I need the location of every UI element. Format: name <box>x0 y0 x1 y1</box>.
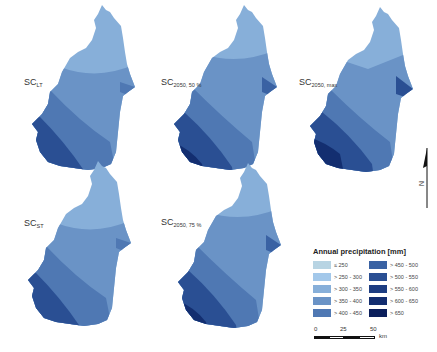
label-sub: 2050, 50 % <box>174 82 202 88</box>
label-sub: 2050, 75 % <box>174 222 202 228</box>
legend-label: > 500 - 550 <box>390 274 418 280</box>
legend-swatch <box>313 309 331 317</box>
map-sc-2050-50 <box>132 0 292 192</box>
label-main: SC <box>299 77 312 87</box>
legend-swatch <box>369 261 387 269</box>
legend-swatch <box>313 285 331 293</box>
scale-tick-50: 50 <box>370 326 377 332</box>
label-main: SC <box>161 77 174 87</box>
legend-item: > 400 - 450 <box>313 308 365 317</box>
label-main: SC <box>161 217 174 227</box>
label-sc-2050-50: SC2050, 50 % <box>161 77 201 88</box>
legend-item: > 350 - 400 <box>313 296 365 305</box>
map-sc-2050-max <box>268 0 428 194</box>
north-label: N <box>418 181 425 186</box>
legend-item: > 650 <box>369 308 429 317</box>
scale-unit: km <box>379 333 387 339</box>
north-arrow-icon <box>420 146 432 208</box>
label-sub: ST <box>37 223 44 229</box>
legend-label: > 350 - 400 <box>334 298 362 304</box>
legend-swatch <box>313 261 331 269</box>
legend-grid: ≤ 250 > 450 - 500 > 250 - 300 > 500 - 55… <box>313 260 437 317</box>
legend-item: > 550 - 600 <box>369 284 429 293</box>
map-sc-st <box>0 148 146 348</box>
legend-item: ≤ 250 <box>313 260 365 269</box>
label-sub: LT <box>37 82 43 88</box>
legend-swatch <box>369 309 387 317</box>
legend-swatch <box>313 273 331 281</box>
label-sc-st: SCST <box>24 218 44 229</box>
label-sc-2050-75: SC2050, 75 % <box>161 217 201 228</box>
label-sc-lt: SCLT <box>24 77 43 88</box>
map-sc-2050-75 <box>136 150 296 350</box>
scale-tick-0: 0 <box>314 326 317 332</box>
legend-swatch <box>369 273 387 281</box>
legend-label: > 450 - 500 <box>390 262 418 268</box>
scale-segment <box>329 336 344 339</box>
legend-label: > 300 - 350 <box>334 286 362 292</box>
legend-item: > 500 - 550 <box>369 272 429 281</box>
scale-bar: 0 25 50 km <box>312 326 392 348</box>
scale-tick-25: 25 <box>340 326 347 332</box>
legend-label: > 400 - 450 <box>334 310 362 316</box>
legend-item: > 300 - 350 <box>313 284 365 293</box>
legend-swatch <box>369 285 387 293</box>
legend-item: > 450 - 500 <box>369 260 429 269</box>
legend-item: > 600 - 650 <box>369 296 429 305</box>
legend-label: > 650 <box>390 310 404 316</box>
scale-segment <box>359 336 375 339</box>
legend-label: > 550 - 600 <box>390 286 418 292</box>
label-main: SC <box>24 77 37 87</box>
legend-swatch <box>313 297 331 305</box>
map-sc-lt <box>0 0 150 192</box>
label-sc-2050-max: SC2050, max <box>299 77 337 88</box>
legend-label: > 250 - 300 <box>334 274 362 280</box>
legend-title: Annual precipitation [mm] <box>313 247 437 256</box>
legend-swatch <box>369 297 387 305</box>
label-main: SC <box>24 218 37 228</box>
legend-item: > 250 - 300 <box>313 272 365 281</box>
legend-label: ≤ 250 <box>334 262 348 268</box>
legend: Annual precipitation [mm] ≤ 250 > 450 - … <box>313 247 437 317</box>
scale-segment <box>344 336 359 339</box>
label-sub: 2050, max <box>312 82 338 88</box>
scale-segment <box>314 336 329 339</box>
legend-label: > 600 - 650 <box>390 298 418 304</box>
